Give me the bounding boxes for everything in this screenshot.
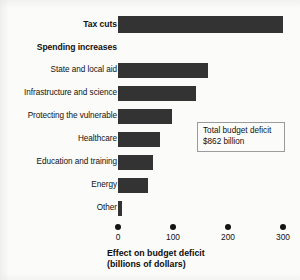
chart-bar-row: Infrastructure and science: [0, 83, 300, 103]
bar-category-label: Tax cuts: [5, 14, 117, 34]
tick-dot-marker: [280, 224, 286, 230]
section-header-label: Spending increases: [5, 38, 117, 56]
bar: [118, 178, 148, 193]
x-axis-title-line-2: (billions of dollars): [107, 259, 205, 270]
tick-dot-marker: [225, 224, 231, 230]
tick-dot-marker: [170, 224, 176, 230]
annotation-line-2: $862 billion: [203, 137, 279, 148]
chart-bar-row: Other: [0, 198, 300, 218]
tick-label: 0: [98, 232, 138, 242]
bar: [118, 63, 208, 78]
x-axis-title-line-1: Effect on budget deficit: [107, 248, 205, 259]
chart-section-header: Spending increases: [0, 38, 300, 56]
bar-category-label: Healthcare: [5, 129, 117, 149]
bar: [118, 16, 283, 33]
bar-category-label: Infrastructure and science: [5, 83, 117, 103]
bar: [118, 155, 153, 170]
bar-category-label: State and local aid: [5, 60, 117, 80]
bar-category-label: Protecting the vulnerable: [5, 106, 117, 126]
chart-bar-row: Tax cuts: [0, 14, 300, 34]
x-axis-title: Effect on budget deficit (billions of do…: [107, 248, 205, 269]
bar: [118, 86, 196, 101]
annotation-line-1: Total budget deficit: [203, 126, 279, 137]
chart-bar-row: Energy: [0, 175, 300, 195]
bar-category-label: Education and training: [5, 152, 117, 172]
bar: [118, 132, 160, 147]
chart-bar-row: Education and training: [0, 152, 300, 172]
x-axis: 0100200300 Effect on budget deficit (bil…: [0, 224, 300, 280]
bar-category-label: Energy: [5, 175, 117, 195]
bar: [118, 201, 122, 216]
bar-category-label: Other: [5, 198, 117, 218]
tick-label: 100: [153, 232, 193, 242]
bar: [118, 109, 172, 124]
tick-label: 300: [263, 232, 300, 242]
tick-label: 200: [208, 232, 248, 242]
total-deficit-annotation: Total budget deficit $862 billion: [197, 122, 285, 152]
bar-chart-figure: Tax cutsSpending increasesState and loca…: [0, 0, 300, 280]
chart-bar-row: State and local aid: [0, 60, 300, 80]
tick-dot-marker: [115, 224, 121, 230]
